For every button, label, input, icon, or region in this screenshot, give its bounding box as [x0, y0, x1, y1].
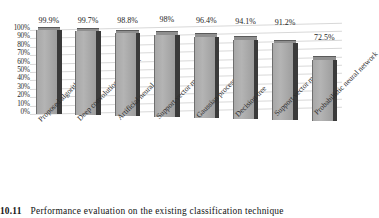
y-axis-tick-labels: 100%90%80%70%60%50%40%30%20%10%0%: [0, 26, 30, 118]
y-axis-tick: 10%: [0, 101, 30, 108]
bar-value-label: 99.7%: [70, 17, 106, 25]
plot-area: 99.9%Proposed algorithm99.7%Deep convolu…: [30, 30, 345, 114]
caption-number: RE 10.11: [0, 206, 22, 216]
bar-side-face: [254, 40, 259, 119]
y-axis-tick: 0%: [0, 109, 30, 116]
bar-value-label: 94.1%: [228, 18, 264, 26]
caption-text: Performance evaluation on the existing c…: [31, 206, 284, 216]
y-axis-tick: 20%: [0, 92, 30, 99]
bar-value-label: 98.8%: [110, 17, 146, 25]
y-axis-tick: 100%: [0, 25, 30, 32]
y-axis-tick: 70%: [0, 50, 30, 57]
bar-value-label: 91.2%: [267, 19, 303, 27]
y-axis-tick: 60%: [0, 59, 30, 66]
y-axis-tick: 30%: [0, 84, 30, 91]
y-axis-tick: 50%: [0, 67, 30, 74]
bar-side-face: [293, 43, 298, 120]
bar-value-label: 98%: [149, 16, 185, 24]
y-axis-tick: 80%: [0, 42, 30, 49]
bar-chart: 100%90%80%70%60%50%40%30%20%10%0% 99.9%P…: [0, 0, 351, 200]
bar-value-label: 96.4%: [189, 17, 225, 25]
bar-value-label: 72.5%: [307, 34, 343, 42]
bar-side-face: [215, 37, 220, 118]
y-axis-tick: 40%: [0, 75, 30, 82]
figure-caption: RE 10.11Performance evaluation on the ex…: [0, 205, 351, 218]
bar-value-label: 99.9%: [31, 17, 67, 25]
y-axis-tick: 90%: [0, 33, 30, 40]
